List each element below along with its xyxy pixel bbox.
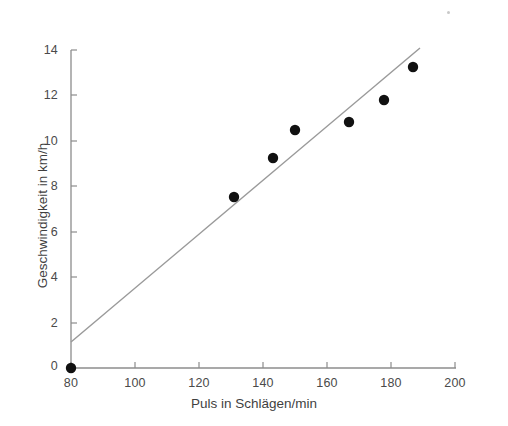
x-tick-label-100: 100	[124, 376, 145, 390]
x-axis-title: Puls in Schlägen/min	[0, 396, 508, 411]
data-point	[268, 153, 278, 163]
x-tick-label-200: 200	[444, 376, 465, 390]
chart-figure: 14 12 10 8 6 4 2 0 80 100 120 140 160 18…	[0, 0, 508, 426]
data-point-markers	[66, 62, 418, 373]
data-point	[66, 363, 76, 373]
data-point	[408, 62, 418, 72]
data-point	[344, 117, 354, 127]
x-tick-label-180: 180	[380, 376, 401, 390]
data-point	[379, 95, 389, 105]
regression-line	[71, 48, 420, 342]
x-axis-ticks	[71, 362, 455, 368]
plot-canvas	[0, 0, 508, 426]
x-tick-label-120: 120	[188, 376, 209, 390]
x-tick-label-160: 160	[316, 376, 337, 390]
y-tick-label-0: 0	[20, 359, 58, 373]
x-tick-label-80: 80	[64, 376, 78, 390]
y-axis-ticks	[71, 50, 77, 323]
y-tick-label-14: 14	[20, 43, 58, 57]
y-axis-title: Geschwindigkeit in km/h	[35, 96, 50, 336]
data-point	[229, 192, 239, 202]
data-point	[290, 125, 300, 135]
scan-speck	[447, 11, 450, 14]
x-tick-label-140: 140	[252, 376, 273, 390]
